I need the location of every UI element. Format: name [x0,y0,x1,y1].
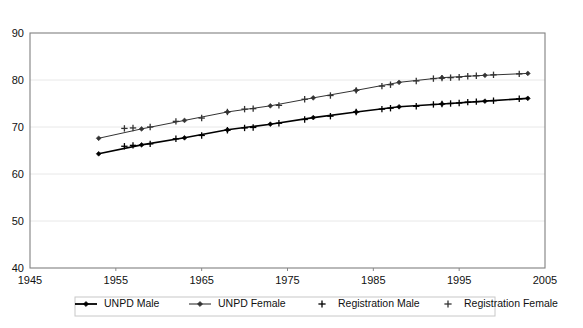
legend-label: Registration Male [338,297,420,309]
x-tick-label-1975: 1975 [275,274,299,286]
legend-label: UNPD Male [104,297,160,309]
life-expectancy-line-chart: 908070605040 194519551965197519851995200… [0,0,583,328]
y-tick-label-60: 60 [12,168,24,180]
legend-label: Registration Female [464,297,558,309]
y-tick-label-50: 50 [12,215,24,227]
y-tick-label-80: 80 [12,74,24,86]
chart-legend: UNPD MaleUNPD FemaleRegistration MaleReg… [75,297,558,316]
x-tick-label-2005: 2005 [533,274,557,286]
y-tick-label-90: 90 [12,27,24,39]
x-tick-label-1945: 1945 [18,274,42,286]
chart-canvas: 908070605040 194519551965197519851995200… [0,0,583,328]
x-tick-label-1995: 1995 [447,274,471,286]
x-tick-label-1955: 1955 [104,274,128,286]
y-tick-label-70: 70 [12,121,24,133]
y-tick-label-40: 40 [12,262,24,274]
x-tick-label-1985: 1985 [361,274,385,286]
x-tick-label-1965: 1965 [189,274,213,286]
legend-label: UNPD Female [218,297,286,309]
